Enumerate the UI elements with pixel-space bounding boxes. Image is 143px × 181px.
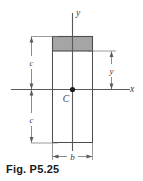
figure-caption: Fig. P5.25 <box>6 163 59 175</box>
cross-section-diagram: y x C c c y b <box>0 0 143 181</box>
dimension-label-width-b: b <box>70 152 75 162</box>
arrowhead-lower-c-bottom <box>30 137 34 143</box>
dimension-label-lower-c: c <box>30 115 34 125</box>
arrowhead-upper-c-bottom <box>30 84 34 90</box>
dimension-label-strip-depth: y <box>109 66 114 76</box>
centroid-point <box>70 87 75 92</box>
arrowhead-lower-c-top <box>30 90 34 96</box>
dimension-label-upper-c: c <box>30 58 34 68</box>
centroid-label: C <box>63 94 70 104</box>
figure-container: y x C c c y b Fig. P5.25 <box>0 0 143 181</box>
arrowhead-strip-bottom <box>110 84 114 90</box>
arrowhead-upper-c-top <box>30 37 34 43</box>
y-axis-label: y <box>75 8 81 18</box>
x-axis-label: x <box>129 84 135 94</box>
arrowhead-width-left <box>53 155 59 159</box>
arrowhead-strip-top <box>110 51 114 57</box>
arrowhead-width-right <box>87 155 93 159</box>
